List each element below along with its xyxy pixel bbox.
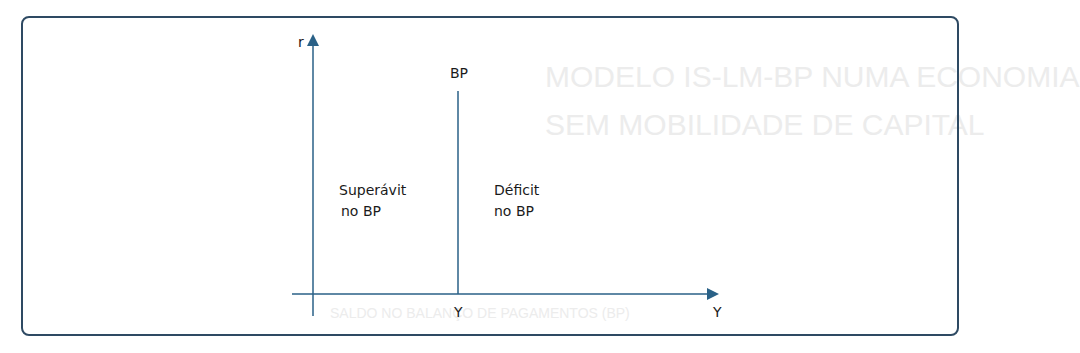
surplus-label-line1: Superávit (339, 180, 406, 200)
x-axis-label: Y (713, 302, 722, 322)
bp-income-label: Y (454, 302, 463, 322)
y-axis-arrow-icon (307, 34, 319, 46)
deficit-label-line1: Déficit (494, 180, 539, 200)
y-axis-label: r (298, 32, 304, 52)
x-axis (292, 288, 719, 300)
surplus-label-line2: no BP (341, 201, 381, 221)
deficit-label-line2: no BP (494, 201, 534, 221)
y-axis (307, 34, 319, 316)
x-axis-arrow-icon (707, 288, 719, 300)
bp-curve-label: BP (450, 63, 468, 83)
